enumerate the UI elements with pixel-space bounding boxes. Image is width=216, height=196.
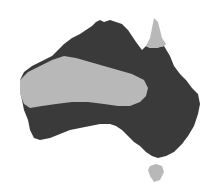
cape-york-region xyxy=(146,18,166,48)
tasmania-region xyxy=(148,164,164,182)
australia-map xyxy=(0,0,216,196)
